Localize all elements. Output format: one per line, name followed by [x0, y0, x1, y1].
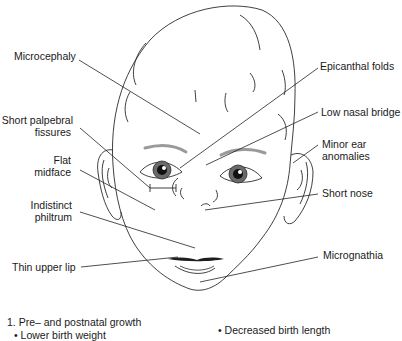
- label-low-nasal-bridge: Low nasal bridge: [321, 106, 400, 118]
- leader-microcephaly: [79, 60, 200, 134]
- footer-bullet-left: • Lower birth weight: [14, 329, 106, 341]
- label-short-palpebral-line2: fissures: [0, 126, 71, 138]
- leader-short-palpebral: [80, 128, 150, 188]
- label-short-palpebral-line1: Short palpebral: [0, 114, 73, 126]
- footer-item-1: 1. Pre– and postnatal growth: [7, 316, 141, 328]
- label-flat-midface-line1: Flat: [0, 154, 71, 166]
- leader-thin-upper-lip: [81, 257, 178, 267]
- label-minor-ear-line1: Minor ear: [322, 138, 366, 150]
- label-short-nose: Short nose: [322, 187, 373, 199]
- label-minor-ear-line2: anomalies: [322, 150, 370, 162]
- leader-micrognathia: [200, 257, 318, 282]
- right-brow: [221, 149, 265, 155]
- label-micrognathia: Micrognathia: [323, 249, 383, 261]
- label-indistinct-philtrum-line1: Indistinct: [0, 199, 72, 211]
- right-eye: [220, 165, 262, 183]
- leader-flat-midface: [80, 170, 155, 210]
- head-outline: [112, 6, 295, 290]
- label-microcephaly: Microcephaly: [14, 50, 76, 62]
- label-flat-midface-line2: midface: [0, 166, 71, 178]
- leader-minor-ear: [293, 145, 318, 163]
- label-epicanthal-folds: Epicanthal folds: [320, 60, 394, 72]
- label-thin-upper-lip: Thin upper lip: [12, 261, 76, 273]
- leader-indistinct-philtrum: [80, 212, 195, 248]
- left-eye: [140, 161, 182, 179]
- footer-bullet-right: • Decreased birth length: [218, 324, 330, 336]
- left-brow: [145, 146, 186, 152]
- label-indistinct-philtrum-line2: philtrum: [0, 211, 72, 223]
- upper-lip: [168, 257, 224, 261]
